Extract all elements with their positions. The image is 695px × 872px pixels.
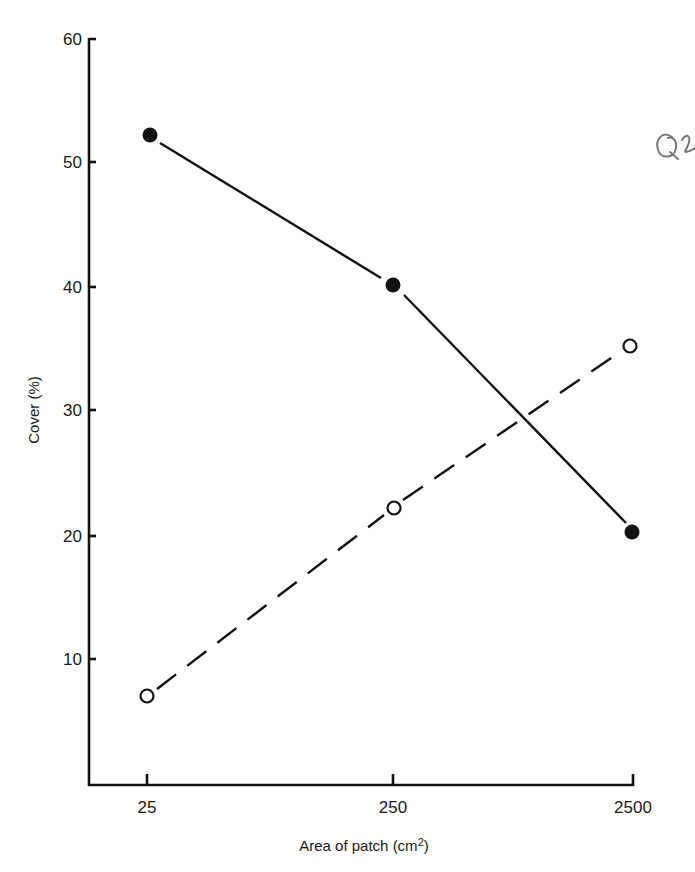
handwritten-q-icon xyxy=(657,135,678,159)
y-tick-label: 30 xyxy=(63,401,82,420)
x-tick-label: 250 xyxy=(379,798,407,817)
open-circle-marker xyxy=(141,690,154,703)
y-tick-labels: 60 50 40 30 20 10 xyxy=(63,30,82,669)
series-open-circles xyxy=(141,340,637,703)
line-chart: 60 50 40 30 20 10 25 250 2500 Cover (%) … xyxy=(0,0,695,872)
open-circle-marker xyxy=(624,340,637,353)
x-axis-title: Area of patch (cm2) xyxy=(299,836,429,854)
y-tick-label: 40 xyxy=(63,278,82,297)
solid-line xyxy=(160,143,381,278)
series-filled-circles xyxy=(143,128,640,540)
x-tick-labels: 25 250 2500 xyxy=(138,798,652,817)
filled-circle-marker xyxy=(143,128,158,143)
y-tick-label: 10 xyxy=(63,650,82,669)
y-axis-title: Cover (%) xyxy=(25,376,42,444)
x-tick-label: 2500 xyxy=(614,798,652,817)
dashed-line xyxy=(157,515,384,689)
filled-circle-marker xyxy=(386,278,401,293)
filled-circle-marker xyxy=(625,525,640,540)
handwritten-annotation: Q2 xyxy=(0,0,695,159)
y-tick-label: 50 xyxy=(63,153,82,172)
solid-line xyxy=(404,295,626,523)
dashed-line xyxy=(403,352,620,500)
handwritten-2-icon xyxy=(682,136,695,152)
open-circle-marker xyxy=(388,502,401,515)
x-tick-label: 25 xyxy=(138,798,157,817)
y-tick-label: 20 xyxy=(63,527,82,546)
y-tick-label: 60 xyxy=(63,30,82,49)
